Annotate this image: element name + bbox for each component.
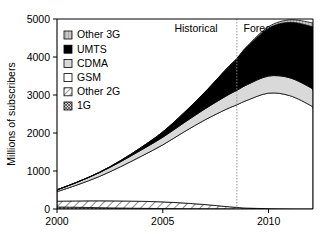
legend-swatch-other-3g <box>64 31 72 39</box>
legend-swatch-1g <box>64 102 72 110</box>
historical-label: Historical <box>174 22 217 34</box>
legend-label-1g: 1G <box>77 99 91 111</box>
y-tick-label: 0 <box>44 203 50 215</box>
legend-swatch-cdma <box>64 59 72 67</box>
y-tick-label: 3000 <box>27 89 51 101</box>
legend-label-umts: UMTS <box>77 43 107 55</box>
legend-swatch-gsm <box>64 74 72 82</box>
legend-swatch-umts <box>64 45 72 53</box>
x-tick-label: 2005 <box>151 215 175 227</box>
legend-label-gsm: GSM <box>77 71 101 83</box>
legend-label-other-2g: Other 2G <box>77 85 120 97</box>
x-tick-label: 2010 <box>257 215 281 227</box>
subscribers-stacked-area-chart: 010002000300040005000 200020052010 Milli… <box>0 0 326 241</box>
y-tick-label: 5000 <box>27 13 51 25</box>
y-tick-label: 2000 <box>27 127 51 139</box>
legend-swatch-other-2g <box>64 88 72 96</box>
x-tick-label: 2000 <box>45 215 69 227</box>
legend-label-other-3g: Other 3G <box>77 28 120 40</box>
legend-label-cdma: CDMA <box>77 57 108 69</box>
y-axis-title: Millions of subscribers <box>5 62 17 165</box>
forecast-label: Forecast <box>244 22 285 34</box>
y-tick-label: 4000 <box>27 51 51 63</box>
y-tick-label: 1000 <box>27 165 51 177</box>
chart-container: 010002000300040005000 200020052010 Milli… <box>0 0 326 241</box>
